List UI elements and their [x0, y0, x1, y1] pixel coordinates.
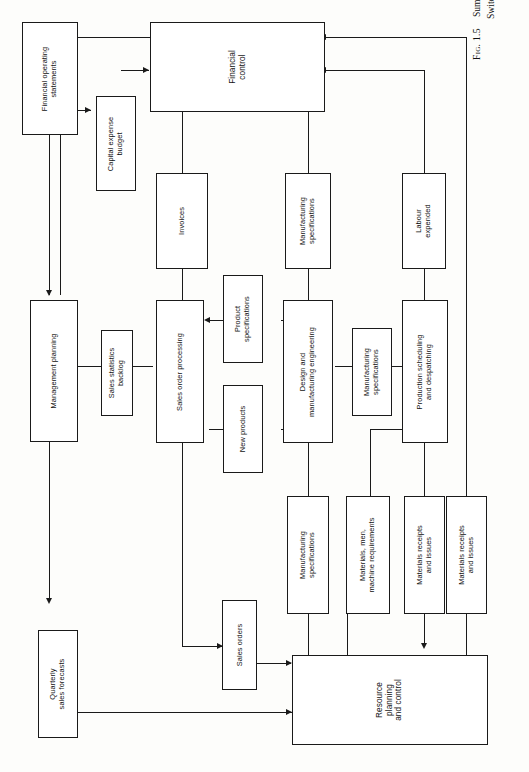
- node-label: Materials receipts and issues: [458, 525, 475, 585]
- node-invoices[interactable]: Invoices: [156, 173, 208, 269]
- node-management-planning[interactable]: Management planning: [30, 300, 78, 442]
- node-sales-orders[interactable]: Sales orders: [222, 600, 257, 690]
- node-label: Labour expended: [415, 204, 432, 237]
- node-financial-operating-statements[interactable]: Financial operating statements: [22, 22, 78, 135]
- node-manufacturing-specifications-low[interactable]: Manufacturing specifications: [287, 496, 329, 614]
- node-label: Capital expense budget: [107, 116, 124, 171]
- connector-materials2-rail-horizontal: [325, 37, 467, 38]
- node-materials-receipts-and-issues-2[interactable]: Materials receipts and issues: [446, 496, 487, 614]
- node-capital-expense-budget[interactable]: Capital expense budget: [96, 96, 136, 191]
- figure-page: Financial operating statements Financial…: [0, 0, 529, 772]
- connector-labour-horizontal: [325, 70, 425, 71]
- node-manufacturing-specifications-mid[interactable]: Manufacturing specifications: [352, 328, 392, 416]
- node-label: Product specifications: [234, 296, 251, 342]
- node-label: Sales statistics backlog: [108, 348, 125, 398]
- node-materials-men-machine-requirements[interactable]: Materials, men, machine requirements: [346, 496, 390, 614]
- node-financial-control[interactable]: Financial control: [150, 22, 325, 112]
- node-label: Manufacturing specifications: [363, 348, 380, 396]
- arrowhead-fos-to-mgmt: [46, 290, 52, 296]
- connector-ssb-to-mgmt: [78, 366, 103, 367]
- arrowhead-materials1-to-rpc: [421, 643, 427, 649]
- node-label: Sales order processing: [176, 333, 185, 411]
- node-materials-receipts-and-issues-1[interactable]: Materials receipts and issues: [404, 496, 445, 614]
- node-quarterly-sales-forecasts[interactable]: Quarterly sales forecasts: [38, 630, 78, 738]
- figure-caption: Fig. 1.5Summary chart of original 'total…: [470, 0, 498, 60]
- node-label: Manufacturing specifications: [299, 197, 316, 245]
- connector-mgmt-to-qsf: [49, 437, 50, 602]
- node-product-specifications[interactable]: Product specifications: [223, 275, 263, 363]
- node-sales-statistics-backlog[interactable]: Sales statistics backlog: [101, 330, 133, 416]
- connector-materials-req-to-rpc: [347, 613, 348, 655]
- node-label: Financial control: [228, 50, 247, 84]
- node-label: Resource planning and control: [375, 679, 404, 721]
- node-label: Sales orders: [235, 624, 244, 667]
- node-design-and-manufacturing-engineering[interactable]: Design and manufacturing engineering: [283, 300, 333, 443]
- figure-caption-line1: Summary chart of original 'total system'…: [471, 0, 482, 17]
- node-label: Manufacturing specifications: [299, 531, 316, 579]
- node-manufacturing-specifications-top[interactable]: Manufacturing specifications: [285, 173, 331, 269]
- connector-fc-to-fos: [78, 37, 152, 38]
- arrowhead-mgmt-to-ceb: [85, 107, 91, 113]
- node-production-scheduling-and-despatching[interactable]: Production scheduling and despatching: [402, 300, 448, 443]
- node-label: Design and manufacturing engineering: [299, 326, 316, 416]
- node-resource-planning-and-control[interactable]: Resource planning and control: [292, 655, 488, 745]
- connector-prodsched-to-materials1: [424, 435, 425, 497]
- node-label: Materials receipts and issues: [416, 525, 433, 585]
- figure-number: Fig. 1.5: [471, 28, 482, 60]
- connector-sop-to-salesorders-horizontal: [182, 646, 222, 647]
- node-label: Production scheduling and despatching: [416, 334, 433, 409]
- connector-materials1-to-rpc: [424, 613, 425, 647]
- arrowhead-mgmt-to-qsf: [46, 598, 52, 604]
- node-label: Materials, men, machine requirements: [359, 517, 376, 592]
- node-label: Invoices: [178, 207, 187, 235]
- arrowhead-ceb-to-fc: [143, 67, 149, 73]
- node-labour-expended[interactable]: Labour expended: [402, 173, 446, 269]
- connector-mfgspec-low-to-rpc: [308, 613, 309, 655]
- connector-materials2-to-rpc: [466, 613, 467, 655]
- connector-design-to-mfgspec-low: [308, 435, 309, 497]
- node-sales-order-processing[interactable]: Sales order processing: [156, 300, 204, 443]
- node-label: Quarterly sales forecasts: [49, 659, 66, 710]
- node-new-products[interactable]: New products: [223, 385, 263, 473]
- connector-qsf-to-rpc: [78, 712, 293, 713]
- node-label: Financial operating statements: [41, 46, 58, 110]
- figure-caption-line2-a: Switch Division (: [485, 0, 496, 19]
- node-label: Management planning: [50, 333, 59, 408]
- connector-sop-to-salesorders-vertical: [182, 437, 183, 647]
- arrowhead-prodspec-to-sop: [204, 317, 210, 323]
- connector-mgmt-to-ceb-vertical: [60, 110, 61, 295]
- node-label: New products: [239, 406, 248, 452]
